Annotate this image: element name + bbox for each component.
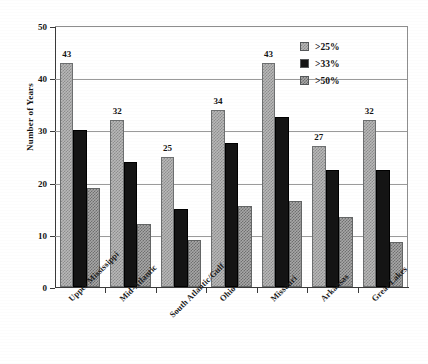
bar xyxy=(73,130,87,287)
x-axis-tick xyxy=(358,288,359,293)
y-axis-tick-label: 0 xyxy=(43,283,48,293)
x-axis-tick xyxy=(206,288,207,293)
y-axis-tick-label: 30 xyxy=(38,126,47,136)
bar-value-label: 43 xyxy=(62,49,71,59)
bar-value-label: 34 xyxy=(213,96,222,106)
legend-label: >25% xyxy=(315,42,339,52)
bar xyxy=(326,170,340,287)
bar xyxy=(238,206,252,287)
legend-label: >50% xyxy=(315,76,339,86)
y-axis-title: Number of Years xyxy=(25,47,35,187)
y-axis-tick-label: 10 xyxy=(38,231,47,241)
y-axis-tick xyxy=(50,288,55,289)
bar xyxy=(262,63,276,287)
bar xyxy=(275,117,289,287)
bar-value-label: 43 xyxy=(264,49,273,59)
legend-swatch-icon xyxy=(300,59,309,68)
bar-group: 25 xyxy=(156,27,206,287)
legend-item: >50% xyxy=(300,72,396,89)
legend-swatch-icon xyxy=(300,76,309,85)
legend-item: >25% xyxy=(300,38,396,55)
bar-value-label: 25 xyxy=(163,143,172,153)
bar-group: 34 xyxy=(206,27,256,287)
bar-value-label: 32 xyxy=(113,106,122,116)
bar-value-label: 27 xyxy=(314,132,323,142)
y-axis-tick-label: 40 xyxy=(38,74,47,84)
legend-item: >33% xyxy=(300,55,396,72)
bar-chart-figure: Number of Years 01020304050 433225344327… xyxy=(0,0,428,364)
chart-legend: >25%>33%>50% xyxy=(300,38,396,89)
legend-label: >33% xyxy=(315,59,339,69)
bar xyxy=(312,146,326,287)
x-axis-tick xyxy=(105,288,106,293)
bar xyxy=(225,143,239,287)
bar-value-label: 32 xyxy=(365,106,374,116)
bar xyxy=(363,120,377,287)
x-axis-tick xyxy=(307,288,308,293)
bar-group: 43 xyxy=(55,27,105,287)
bar xyxy=(174,209,188,287)
legend-swatch-icon xyxy=(300,42,309,51)
bar xyxy=(60,63,74,287)
bar xyxy=(161,157,175,288)
y-axis-tick-label: 20 xyxy=(38,179,47,189)
bar xyxy=(124,162,138,287)
x-axis-tick xyxy=(257,288,258,293)
bar xyxy=(376,170,390,287)
x-axis-tick xyxy=(156,288,157,293)
y-axis-tick-label: 50 xyxy=(38,22,47,32)
